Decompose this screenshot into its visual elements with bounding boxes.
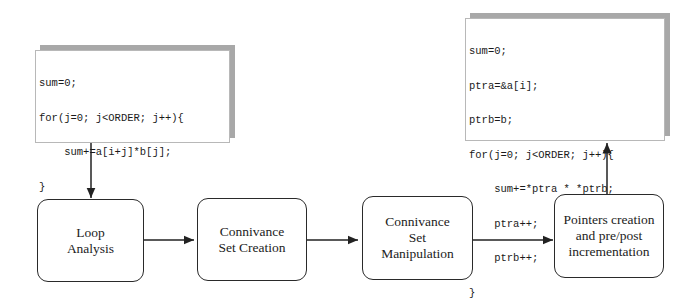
code-line: ptra=&a[i];: [469, 81, 661, 93]
node-label: Loop Analysis: [67, 225, 114, 257]
code-line: sum=0;: [39, 78, 226, 90]
code-line: }: [469, 288, 661, 300]
code-line: sum+=a[i+j]*b[j];: [39, 147, 226, 159]
node-connivance-set-manipulation: Connivance Set Manipulation: [362, 196, 473, 280]
code-line: for(j=0; j<ORDER; j++){: [39, 113, 226, 125]
code-line: }: [39, 182, 226, 194]
code-before-box: sum=0; for(j=0; j<ORDER; j++){ sum+=a[i+…: [35, 50, 230, 143]
code-line: for(j=0; j<ORDER; j++){: [469, 150, 661, 162]
node-label: Pointers creation and pre/post increment…: [563, 212, 654, 260]
code-line: sum=0;: [469, 46, 661, 58]
node-label: Connivance Set Creation: [218, 224, 285, 256]
code-line: ptrb=b;: [469, 115, 661, 127]
node-connivance-set-creation: Connivance Set Creation: [197, 198, 307, 281]
code-after-box: sum=0; ptra=&a[i]; ptrb=b; for(j=0; j<OR…: [465, 18, 665, 141]
node-loop-analysis: Loop Analysis: [37, 199, 144, 282]
node-pointers-creation: Pointers creation and pre/post increment…: [554, 194, 664, 278]
node-label: Connivance Set Manipulation: [381, 214, 454, 262]
